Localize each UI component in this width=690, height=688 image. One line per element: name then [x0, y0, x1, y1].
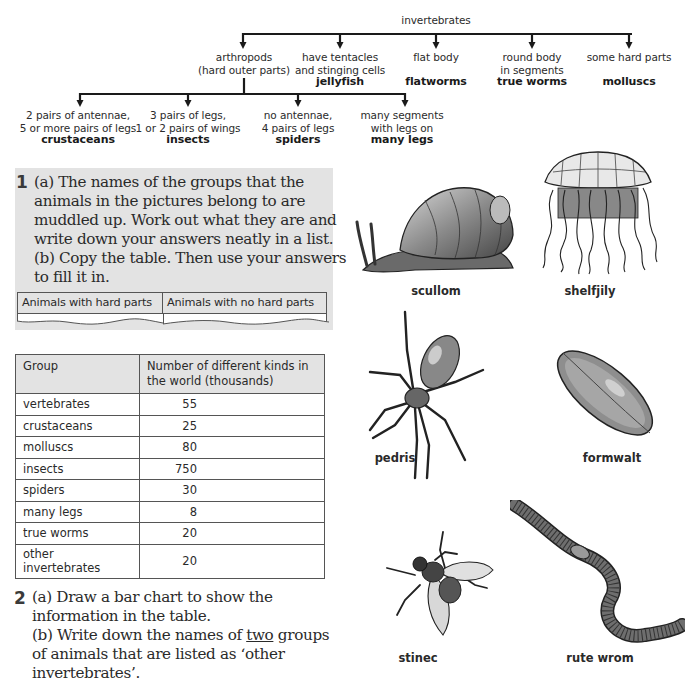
question-line: (a) Draw a bar chart to show the	[32, 588, 329, 607]
tree-node-crustaceans: 2 pairs of antennae, 5 or more pairs of …	[20, 109, 136, 147]
table-row: many legs8	[16, 501, 325, 523]
tree-node-molluscs: some hard parts molluscs	[587, 51, 672, 89]
cell-value: 20	[140, 523, 325, 545]
torn-edge	[17, 316, 329, 328]
question-2-text: (a) Draw a bar chart to show the informa…	[32, 588, 329, 683]
question-line: invertebrates’.	[32, 664, 329, 683]
table-row: true worms20	[16, 523, 325, 545]
jellyfish-illustration	[533, 150, 663, 275]
header-hard-parts: Animals with hard parts	[18, 293, 163, 313]
tree-node-flatworms: flat body flatworms	[405, 51, 467, 89]
emphasis-two: two	[246, 626, 273, 644]
flatworm-illustration	[545, 338, 665, 448]
node-desc-line: many segments	[360, 109, 443, 122]
question-text-part: groups	[273, 626, 329, 644]
node-desc-line: arthropods	[198, 51, 290, 64]
question-line: (b) Copy the table. Then use your answer…	[34, 249, 346, 268]
fly-illustration	[385, 530, 495, 640]
question-line: animals in the pictures belong to are	[34, 192, 346, 211]
node-desc-line: 2 pairs of antennae,	[20, 109, 136, 122]
table-header-row: Group Number of different kinds in the w…	[16, 355, 325, 394]
header-number-of-kinds: Number of different kinds in the world (…	[140, 355, 325, 394]
question-line: of animals that are listed as ‘other	[32, 645, 329, 664]
question-line: write down your answers neatly in a list…	[34, 230, 346, 249]
snail-icon	[355, 180, 520, 275]
tree-node-arthropods: arthropods (hard outer parts)	[198, 51, 290, 76]
fly-icon	[385, 530, 495, 640]
table-row: insects750	[16, 458, 325, 480]
animal-label-rute-wrom: rute wrom	[566, 651, 633, 665]
cell-group: crustaceans	[16, 415, 140, 437]
cell-group-line: invertebrates	[23, 561, 100, 575]
node-desc-line: some hard parts	[587, 51, 672, 64]
question-line: to fill it in.	[34, 268, 346, 287]
node-desc-line: round body	[497, 51, 567, 64]
node-group-name: insects	[136, 134, 241, 147]
cell-value: 55	[140, 394, 325, 416]
cell-group: many legs	[16, 501, 140, 523]
cell-group: molluscs	[16, 437, 140, 459]
cell-value: 30	[140, 480, 325, 502]
tree-node-spiders: no antennae, 4 pairs of legs spiders	[262, 109, 335, 147]
tree-node-jellyfish: have tentacles and stinging cells jellyf…	[295, 51, 385, 89]
node-desc-line: have tentacles	[295, 51, 385, 64]
question-1-text: (a) The names of the groups that the ani…	[34, 173, 346, 287]
node-group-name: crustaceans	[20, 134, 136, 147]
table-row: spiders30	[16, 480, 325, 502]
header-group: Group	[16, 355, 140, 394]
table-row: vertebrates55	[16, 394, 325, 416]
animal-label-pedris: pedris	[375, 451, 416, 465]
earthworm-illustration	[510, 500, 685, 645]
jellyfish-icon	[533, 150, 663, 275]
cell-value: 25	[140, 415, 325, 437]
cell-value: 8	[140, 501, 325, 523]
tree-root-invertebrates: invertebrates	[401, 14, 470, 27]
node-group-name: jellyfish	[295, 76, 385, 89]
node-desc-line: no antennae,	[262, 109, 335, 122]
node-group-name: molluscs	[587, 76, 672, 89]
question-2-number: 2	[14, 588, 26, 608]
header-no-hard-parts: Animals with no hard parts	[163, 293, 326, 313]
node-desc-line: 3 pairs of legs,	[136, 109, 241, 122]
header-line: Number of different kinds in	[147, 359, 309, 373]
snail-illustration	[355, 180, 520, 275]
hard-parts-table: Animals with hard parts Animals with no …	[17, 292, 327, 323]
question-line: (a) The names of the groups that the	[34, 173, 346, 192]
question-1-number: 1	[16, 172, 28, 192]
node-desc-line: flat body	[405, 51, 467, 64]
hard-parts-table-header: Animals with hard parts Animals with no …	[18, 293, 326, 314]
animal-label-shelfjily: shelfjily	[564, 284, 615, 298]
cell-value: 20	[140, 544, 325, 578]
tree-node-many-legs: many segments with legs on many legs	[360, 109, 443, 147]
tree-node-insects: 3 pairs of legs, 1 or 2 pairs of wings i…	[136, 109, 241, 147]
question-line: muddled up. Work out what they are and	[34, 211, 346, 230]
cell-group: insects	[16, 458, 140, 480]
flatworm-icon	[545, 338, 665, 448]
cell-group: spiders	[16, 480, 140, 502]
animal-label-formwalt: formwalt	[583, 451, 641, 465]
animal-label-stinec: stinec	[398, 651, 437, 665]
cell-group: vertebrates	[16, 394, 140, 416]
cell-group: true worms	[16, 523, 140, 545]
node-group-name: spiders	[262, 134, 335, 147]
node-group-name: true worms	[497, 76, 567, 89]
table-row: crustaceans25	[16, 415, 325, 437]
animal-label-scullom: scullom	[411, 284, 461, 298]
invertebrate-counts-table: Group Number of different kinds in the w…	[15, 354, 325, 579]
table-row: molluscs80	[16, 437, 325, 459]
hard-parts-table-body	[18, 314, 326, 324]
cell-value: 750	[140, 458, 325, 480]
table-row: other invertebrates 20	[16, 544, 325, 578]
node-desc-line: (hard outer parts)	[198, 64, 290, 77]
node-group-name: many legs	[360, 134, 443, 147]
question-line: (b) Write down the names of two groups	[32, 626, 329, 645]
tree-root-label: invertebrates	[401, 14, 470, 27]
tree-node-true-worms: round body in segments true worms	[497, 51, 567, 89]
question-text-part: (b) Write down the names of	[32, 626, 246, 644]
question-line: information in the table.	[32, 607, 329, 626]
node-group-name: flatworms	[405, 76, 467, 89]
cell-group: other invertebrates	[16, 544, 140, 578]
cell-value: 80	[140, 437, 325, 459]
earthworm-icon	[510, 500, 685, 645]
header-line: the world (thousands)	[147, 374, 274, 388]
